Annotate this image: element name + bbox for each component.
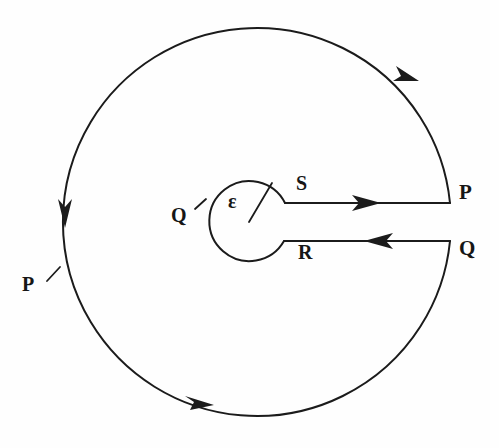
inner-epsilon-circle <box>209 181 285 261</box>
label-inner-left-q-prime: Q <box>171 205 187 225</box>
label-outer-right-top: P <box>459 182 472 203</box>
label-outer-left-p-prime: P <box>22 274 34 294</box>
label-inner-top: S <box>296 173 307 193</box>
epsilon-radius-line <box>249 183 272 222</box>
p-prime-tick <box>47 267 60 281</box>
label-inner-bottom: R <box>298 242 312 262</box>
label-outer-right-bottom: Q <box>459 238 475 259</box>
q-prime-tick <box>195 199 206 209</box>
label-epsilon: ε <box>228 191 237 211</box>
outer-arc-top-arrow <box>393 66 419 81</box>
outer-arc <box>63 28 450 416</box>
contour-diagram: .ln { fill: none; stroke: #1b1b1b; strok… <box>0 0 499 448</box>
outer-arc-left-arrow <box>58 199 72 228</box>
figure-container: .ln { fill: none; stroke: #1b1b1b; strok… <box>0 0 499 448</box>
